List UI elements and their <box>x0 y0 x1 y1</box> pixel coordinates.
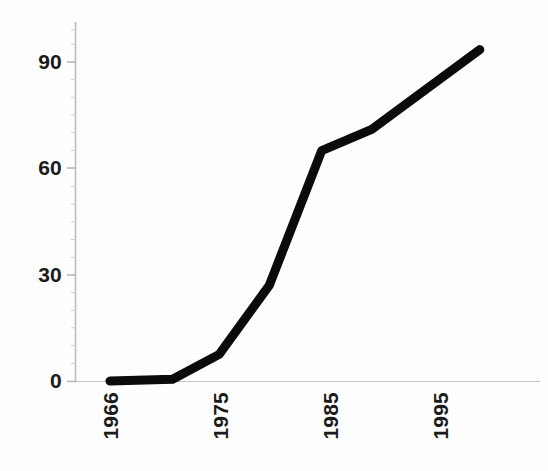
y-tick-label: 30 <box>10 264 62 285</box>
y-tick-label: 90 <box>10 51 62 72</box>
data-line-series-1 <box>110 50 480 381</box>
y-tick-label: 0 <box>10 370 62 391</box>
x-tick-label: 1975 <box>210 392 231 440</box>
plot-area <box>0 0 548 471</box>
y-tick-label: 60 <box>10 157 62 178</box>
x-tick-label: 1966 <box>100 392 121 440</box>
x-tick-label: 1995 <box>430 392 451 440</box>
x-tick-label: 1985 <box>320 392 341 440</box>
line-chart: 0 30 60 90 1966 1975 1985 1995 <box>0 0 548 471</box>
